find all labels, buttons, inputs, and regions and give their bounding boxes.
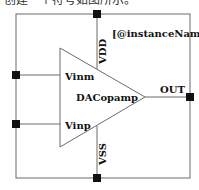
vinp-label: Vinp [64, 120, 91, 131]
pin-vinm[interactable] [12, 71, 20, 79]
vss-label: VSS [97, 143, 108, 166]
pin-vinp[interactable] [12, 120, 20, 128]
cropped-caption: 创建一个符号如图所示。 [4, 0, 136, 7]
cell-name-label: DACopamp [76, 92, 138, 103]
out-label: OUT [160, 84, 185, 95]
pin-vss[interactable] [93, 174, 101, 182]
vdd-label: VDD [97, 39, 108, 65]
pin-vdd[interactable] [93, 10, 101, 18]
instance-name-label: [@instanceName] [112, 28, 199, 39]
opamp-symbol-diagram: 创建一个符号如图所示。 [@instanceName] VDD VSS Vinm… [0, 0, 199, 190]
vinm-label: Vinm [64, 71, 95, 82]
pin-out[interactable] [186, 93, 194, 101]
